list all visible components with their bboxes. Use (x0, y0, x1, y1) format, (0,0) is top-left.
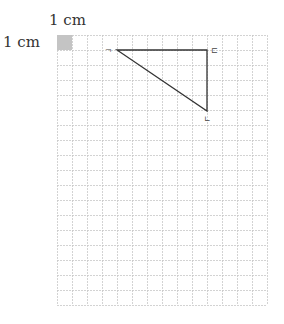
grid-lines (57, 35, 268, 306)
vertex-labels: ¬⊏∟ (105, 46, 218, 124)
unit-square (57, 35, 72, 50)
vertex-label: ⊏ (211, 46, 218, 55)
vertex-label: ∟ (204, 115, 211, 124)
grid-diagram: ¬⊏∟ (0, 0, 284, 324)
vertex-label: ¬ (105, 46, 112, 55)
